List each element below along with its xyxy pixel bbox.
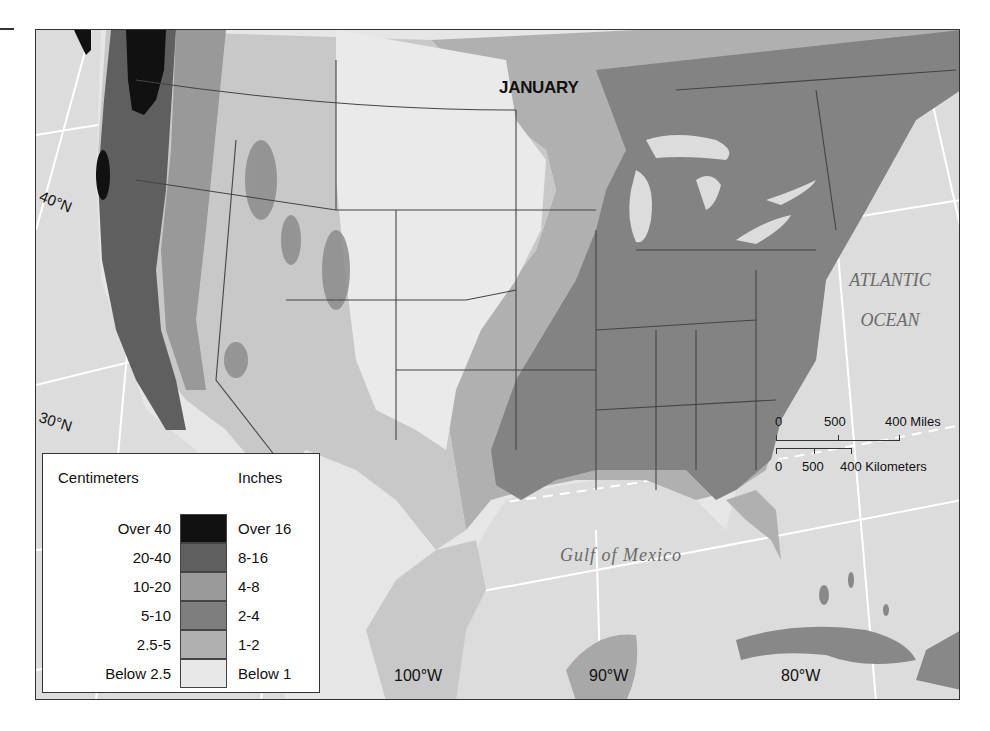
- legend-in-over-16: Over 16: [238, 520, 291, 537]
- atlantic-label-line1: ATLANTIC: [835, 260, 945, 300]
- corner-tick: [0, 28, 14, 30]
- gulf-of-mexico-label: Gulf of Mexico: [560, 545, 682, 566]
- scale-km-label-500: 500: [802, 459, 824, 474]
- legend-swatch-2-4: [180, 601, 227, 630]
- legend: Centimeters Inches Over 40 20-40 10-20 5…: [42, 453, 320, 693]
- longitude-label-80w: 80°W: [781, 667, 820, 685]
- scale-miles-label-500: 500: [824, 414, 846, 429]
- longitude-label-90w: 90°W: [589, 667, 628, 685]
- legend-swatch-8-16: [180, 543, 227, 572]
- legend-in-8-16: 8-16: [238, 549, 268, 566]
- legend-cm-over-40: Over 40: [118, 520, 171, 537]
- legend-header-centimeters: Centimeters: [58, 469, 139, 486]
- scale-miles-label-0: 0: [775, 414, 782, 429]
- legend-cm-5-10: 5-10: [141, 607, 171, 624]
- scale-km-label-end: 400 Kilometers: [840, 459, 927, 474]
- legend-swatch-1-2: [180, 630, 227, 659]
- legend-in-2-4: 2-4: [238, 607, 260, 624]
- map-title: JANUARY: [499, 78, 578, 98]
- scale-km-label-0: 0: [775, 459, 782, 474]
- longitude-label-100w: 100°W: [394, 667, 442, 685]
- scale-bar-miles-mid-tick: [838, 435, 839, 441]
- legend-cm-10-20: 10-20: [133, 578, 171, 595]
- legend-swatch-below-1: [180, 659, 227, 688]
- legend-in-1-2: 1-2: [238, 636, 260, 653]
- legend-swatch-over-16: [180, 514, 227, 543]
- scale-bar-km-mid-tick: [814, 448, 815, 454]
- atlantic-label-line2: OCEAN: [835, 300, 945, 340]
- scale-miles-label-end: 400 Miles: [885, 414, 941, 429]
- legend-swatch-4-8: [180, 572, 227, 601]
- atlantic-ocean-label: ATLANTIC OCEAN: [835, 260, 945, 340]
- legend-cm-below-2-5: Below 2.5: [105, 665, 171, 682]
- legend-header-inches: Inches: [238, 469, 282, 486]
- legend-in-4-8: 4-8: [238, 578, 260, 595]
- legend-in-below-1: Below 1: [238, 665, 291, 682]
- legend-cm-2-5-5: 2.5-5: [137, 636, 171, 653]
- legend-cm-20-40: 20-40: [133, 549, 171, 566]
